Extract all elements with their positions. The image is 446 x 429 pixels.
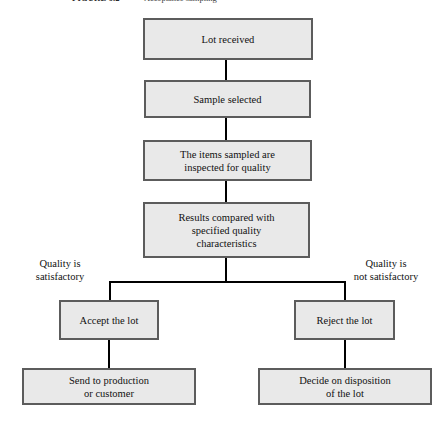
node-sample-selected: Sample selected [144,80,311,118]
connector-accept-to-send [108,340,110,368]
figure-caption: FIGURE 6.2 Acceptance sampling [0,0,446,7]
branch-label-not-satisfactory-text: Quality is not satisfactory [354,258,418,282]
node-lot-received-label: Lot received [148,33,308,46]
node-send-to-production: Send to production or customer [22,368,196,405]
figure-caption-label: FIGURE 6.2 [72,0,120,4]
node-lot-received: Lot received [143,18,313,60]
connector-lot-to-sample [225,60,227,80]
node-results-compared-label: Results compared with specified quality … [148,211,305,250]
connector-inspect-to-results [225,181,227,202]
node-reject-lot: Reject the lot [294,300,395,340]
node-decide-disposition-label: Decide on disposition of the lot [263,374,427,400]
branch-label-satisfactory: Quality is satisfactory [12,244,108,283]
connector-branch-left-drop [109,281,111,300]
node-items-inspected: The items sampled are inspected for qual… [143,140,312,181]
connector-branch-right-drop [344,281,346,300]
node-decide-disposition: Decide on disposition of the lot [258,368,432,405]
connector-reject-to-decide [344,340,346,368]
node-sample-selected-label: Sample selected [149,93,306,106]
figure-caption-text: Acceptance sampling [144,0,217,4]
branch-label-not-satisfactory: Quality is not satisfactory [330,244,442,283]
node-results-compared: Results compared with specified quality … [143,202,310,258]
node-accept-lot-label: Accept the lot [64,314,154,327]
connector-branch-bar [109,281,346,283]
branch-label-satisfactory-text: Quality is satisfactory [36,258,84,282]
flowchart-canvas: FIGURE 6.2 Acceptance sampling Lot recei… [0,0,446,429]
connector-sample-to-inspect [225,118,227,140]
connector-results-stem [225,258,227,283]
node-items-inspected-label: The items sampled are inspected for qual… [148,148,307,174]
node-accept-lot: Accept the lot [59,300,159,340]
node-reject-lot-label: Reject the lot [299,314,390,327]
node-send-to-production-label: Send to production or customer [27,374,191,400]
